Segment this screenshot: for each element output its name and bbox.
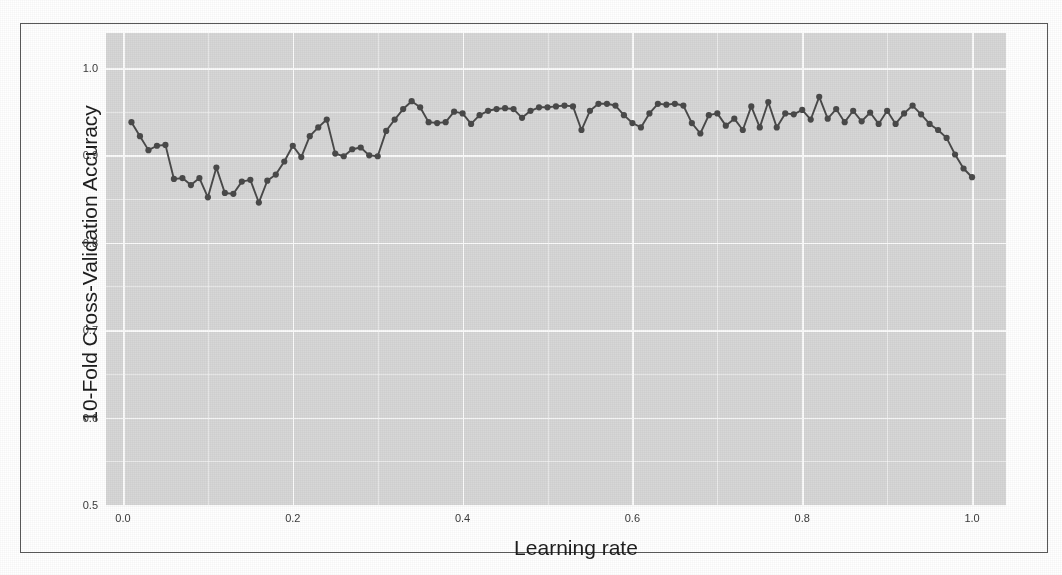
data-point bbox=[502, 105, 508, 111]
data-point bbox=[205, 194, 211, 200]
data-point bbox=[672, 101, 678, 107]
x-tick-label: 0.2 bbox=[271, 512, 315, 524]
data-point bbox=[612, 102, 618, 108]
y-tick-label: 0.6 bbox=[52, 412, 98, 424]
gridline-horizontal-major bbox=[106, 505, 1006, 507]
data-point bbox=[137, 133, 143, 139]
data-point bbox=[315, 124, 321, 130]
data-point bbox=[663, 102, 669, 108]
data-point bbox=[392, 116, 398, 122]
x-tick-label: 0.0 bbox=[101, 512, 145, 524]
data-point bbox=[264, 178, 270, 184]
x-tick-label: 0.6 bbox=[610, 512, 654, 524]
data-point bbox=[409, 98, 415, 104]
data-point bbox=[417, 104, 423, 110]
data-point bbox=[341, 153, 347, 159]
data-point bbox=[791, 111, 797, 117]
data-point bbox=[171, 176, 177, 182]
data-point bbox=[468, 121, 474, 127]
data-point bbox=[731, 116, 737, 122]
data-point bbox=[222, 190, 228, 196]
data-point bbox=[723, 123, 729, 129]
data-point bbox=[935, 127, 941, 133]
data-point bbox=[400, 106, 406, 112]
data-point bbox=[918, 111, 924, 117]
data-point bbox=[901, 110, 907, 116]
y-tick-label: 0.5 bbox=[52, 499, 98, 511]
data-point bbox=[239, 178, 245, 184]
data-point bbox=[765, 99, 771, 105]
data-point bbox=[493, 106, 499, 112]
y-tick-label: 1.0 bbox=[52, 62, 98, 74]
data-point bbox=[825, 116, 831, 122]
data-point bbox=[808, 116, 814, 122]
data-point bbox=[485, 108, 491, 114]
data-point bbox=[638, 124, 644, 130]
data-point bbox=[943, 135, 949, 141]
data-point bbox=[816, 94, 822, 100]
data-point bbox=[578, 127, 584, 133]
x-tick-label: 1.0 bbox=[950, 512, 994, 524]
data-point bbox=[969, 174, 975, 180]
data-point bbox=[587, 108, 593, 114]
data-point bbox=[230, 191, 236, 197]
data-point bbox=[833, 106, 839, 112]
data-point bbox=[867, 109, 873, 115]
data-point bbox=[154, 143, 160, 149]
data-point bbox=[910, 102, 916, 108]
data-point bbox=[706, 112, 712, 118]
data-point bbox=[434, 120, 440, 126]
data-point bbox=[281, 158, 287, 164]
y-tick-label: 0.7 bbox=[52, 324, 98, 336]
data-point bbox=[876, 121, 882, 127]
data-point bbox=[680, 102, 686, 108]
data-point bbox=[952, 151, 958, 157]
x-tick-label: 0.8 bbox=[780, 512, 824, 524]
data-point bbox=[358, 144, 364, 150]
data-point bbox=[655, 101, 661, 107]
data-point bbox=[162, 142, 168, 148]
data-point bbox=[366, 152, 372, 158]
data-point bbox=[960, 165, 966, 171]
data-point bbox=[570, 103, 576, 109]
data-point bbox=[689, 120, 695, 126]
figure-frame: 10-Fold Cross-Validation Accuracy 0.50.6… bbox=[20, 23, 1048, 553]
data-point bbox=[782, 110, 788, 116]
data-point bbox=[519, 115, 525, 121]
data-point bbox=[621, 112, 627, 118]
data-point bbox=[451, 109, 457, 115]
data-point bbox=[510, 106, 516, 112]
plot-panel bbox=[106, 33, 1006, 505]
data-point bbox=[884, 108, 890, 114]
data-point bbox=[536, 104, 542, 110]
data-point bbox=[714, 110, 720, 116]
data-point bbox=[213, 165, 219, 171]
data-point bbox=[740, 127, 746, 133]
y-tick-label: 0.8 bbox=[52, 237, 98, 249]
data-point bbox=[383, 128, 389, 134]
data-point bbox=[748, 103, 754, 109]
data-point bbox=[179, 175, 185, 181]
data-point bbox=[290, 143, 296, 149]
data-point bbox=[527, 108, 533, 114]
y-tick-label: 0.9 bbox=[52, 149, 98, 161]
data-point bbox=[926, 121, 932, 127]
data-point bbox=[561, 102, 567, 108]
data-point bbox=[188, 182, 194, 188]
x-tick-label: 0.4 bbox=[441, 512, 485, 524]
data-series-line bbox=[106, 33, 1006, 505]
data-point bbox=[757, 124, 763, 130]
data-point bbox=[273, 172, 279, 178]
data-point bbox=[553, 103, 559, 109]
data-point bbox=[476, 112, 482, 118]
x-axis-title: Learning rate bbox=[126, 536, 1026, 560]
y-axis-title: 10-Fold Cross-Validation Accuracy bbox=[73, 29, 107, 499]
data-point bbox=[349, 146, 355, 152]
data-point bbox=[247, 177, 253, 183]
data-point bbox=[298, 154, 304, 160]
data-point bbox=[595, 101, 601, 107]
data-point bbox=[859, 118, 865, 124]
data-point bbox=[426, 119, 432, 125]
data-point bbox=[196, 175, 202, 181]
data-point bbox=[332, 151, 338, 157]
